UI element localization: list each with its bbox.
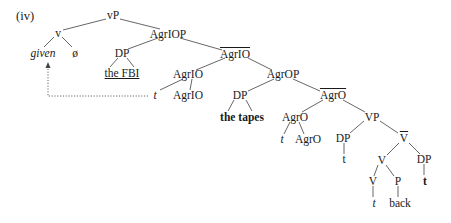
tree-node-AgrIO2: AgrIO	[173, 89, 203, 101]
tree-branch	[386, 165, 394, 176]
tree-node-tIO: t	[153, 89, 156, 101]
tree-branch	[110, 58, 118, 67]
tree-branch	[380, 121, 398, 133]
tree-node-theFBI: the FBI	[105, 67, 140, 79]
tree-branch	[62, 37, 72, 47]
tree-node-tV: t	[372, 197, 375, 209]
tree-node-DP1: DP	[115, 47, 130, 59]
tree-node-P: P	[395, 175, 401, 187]
arrowhead-icon	[46, 62, 51, 68]
tree-branch	[387, 143, 399, 155]
tree-node-given: given	[31, 47, 56, 59]
tree-node-AgrIOP: AgrIOP	[150, 28, 186, 40]
tree-branch	[293, 79, 320, 91]
tree-branch	[248, 79, 274, 91]
tree-branch	[350, 121, 364, 133]
tree-node-Vbar: V	[400, 132, 408, 144]
tree-node-back: back	[389, 197, 411, 209]
tree-node-t4: t	[423, 175, 427, 187]
tree-node-AgrO2: AgrO	[295, 133, 321, 145]
tree-node-AgrO1: AgrO	[282, 111, 308, 123]
tree-node-thetapes: the tapes	[220, 111, 264, 123]
tree-branch	[127, 58, 134, 67]
tree-node-DP3: DP	[336, 132, 351, 144]
tree-node-null: ø	[72, 47, 78, 59]
tree-node-DP2: DP	[233, 89, 248, 101]
tree-node-V2: V	[369, 175, 377, 187]
tree-branch	[284, 122, 290, 134]
tree-node-DP4: DP	[417, 153, 432, 165]
tree-branch	[44, 37, 54, 47]
tree-branch	[246, 100, 252, 111]
tree-node-AgrOP: AgrOP	[267, 68, 300, 80]
tree-node-tO: t	[280, 133, 283, 145]
tree-node-V1: V	[378, 154, 386, 166]
tree-branch	[180, 38, 222, 50]
tree-node-t3: t	[342, 153, 345, 165]
tree-node-AgrObar: AgrO	[320, 89, 346, 101]
tree-branch	[63, 19, 106, 30]
tree-branch	[228, 100, 234, 111]
tree-branch	[343, 100, 365, 112]
tree-node-AgrIObar: AgrIO	[220, 48, 250, 60]
tree-node-vP: vP	[107, 9, 119, 21]
tree-node-AgrIO1: AgrIO	[173, 68, 203, 80]
tree-node-VP: VP	[365, 111, 380, 123]
tree-node-v: v	[55, 27, 61, 39]
